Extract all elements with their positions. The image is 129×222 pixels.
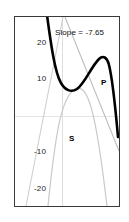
slope-annotation: Slope = -7.65 [55,29,104,37]
point-label-p: P [101,79,106,87]
ytick-label-neg10: -10 [34,148,46,156]
chart-figure: 20 10 -10 -20 P S Slope = -7.65 [0,0,129,222]
plot-area: 20 10 -10 -20 P S Slope = -7.65 [14,16,120,207]
ytick-label-20: 20 [37,39,46,47]
curve-label-s: S [69,135,74,143]
parabola-curve-s [48,88,107,206]
tangent-line [65,17,119,151]
ytick-label-neg20: -20 [34,185,46,193]
ytick-label-10: 10 [37,75,46,83]
chart-canvas [15,17,119,206]
